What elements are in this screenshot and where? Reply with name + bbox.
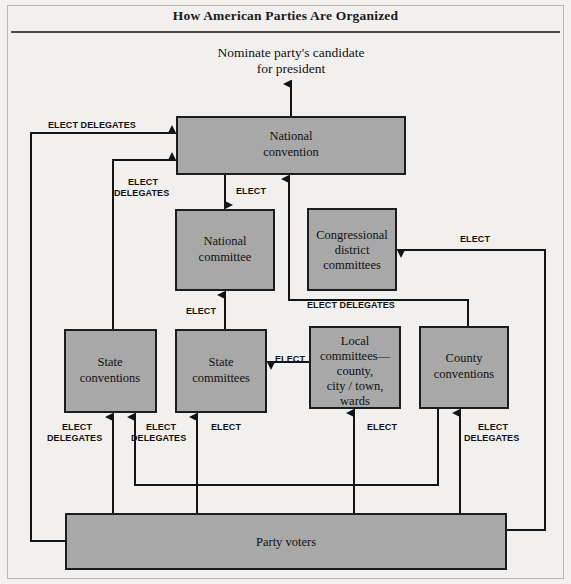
nominate-caption-line1: Nominate party's candidate: [217, 45, 364, 60]
edge-label-elect-delegates-b1-line2: DELEGATES: [47, 433, 102, 443]
node-label: County: [446, 351, 484, 365]
edge-label-elect-delegates-county: ELECT DELEGATES: [307, 300, 395, 310]
node-label: committee: [199, 250, 252, 264]
node-label: committees: [192, 371, 250, 385]
node-label: county,: [337, 364, 373, 378]
organization-flowchart: National convention National committee C…: [0, 0, 571, 584]
edge-label-elect-b3: ELECT: [211, 422, 241, 432]
node-label: convention: [263, 145, 319, 159]
node-label: Local: [341, 334, 370, 348]
edge-label-elect-local-to-state: ELECT: [275, 354, 305, 364]
node-national-committee: National committee: [176, 210, 274, 290]
node-county-conventions: County conventions: [420, 327, 508, 408]
node-label: Party voters: [256, 535, 316, 549]
node-label: wards: [340, 394, 370, 408]
figure-page: How American Parties Are Organized: [0, 0, 571, 584]
node-party-voters: Party voters: [66, 514, 506, 569]
node-label: committees—: [320, 349, 391, 363]
edge-label-elect-convention-committee: ELECT: [236, 186, 266, 196]
edge-label-elect-delegates-mid-line2: DELEGATES: [114, 188, 169, 198]
node-label: National: [203, 234, 247, 248]
node-local-committees: Local committees— county, city / town, w…: [310, 327, 400, 408]
edge-label-elect-delegates-b2-line2: DELEGATES: [131, 433, 186, 443]
node-label: National: [269, 129, 313, 143]
node-label: conventions: [434, 367, 495, 381]
node-label: conventions: [80, 371, 141, 385]
node-label: city / town,: [327, 379, 384, 393]
node-label: committees: [323, 258, 381, 272]
edge-label-elect-delegates-b5-line1: ELECT: [478, 422, 508, 432]
edge-label-elect-delegates-left-top: ELECT DELEGATES: [48, 120, 136, 130]
edge-label-elect-delegates-mid-line1: ELECT: [128, 177, 158, 187]
node-label: State: [98, 355, 123, 369]
node-congressional-district-committees: Congressional district committees: [308, 209, 396, 290]
edge-label-elect-state-to-national: ELECT: [186, 306, 216, 316]
edge-label-elect-b4: ELECT: [367, 422, 397, 432]
edge-county-to-state-conventions: [135, 408, 438, 485]
node-national-convention: National convention: [177, 117, 405, 174]
nominate-caption-line2: for president: [257, 61, 326, 76]
edge-label-elect-delegates-b5-line2: DELEGATES: [464, 433, 519, 443]
node-state-committees: State committees: [176, 330, 266, 412]
node-label: State: [209, 355, 234, 369]
node-label: Congressional: [316, 228, 388, 242]
node-state-conventions: State conventions: [65, 330, 156, 412]
node-label: district: [335, 243, 370, 257]
edge-label-elect-delegates-b1-line1: ELECT: [62, 422, 92, 432]
edge-label-elect-congressional: ELECT: [460, 234, 490, 244]
edge-label-elect-delegates-b2-line1: ELECT: [146, 422, 176, 432]
